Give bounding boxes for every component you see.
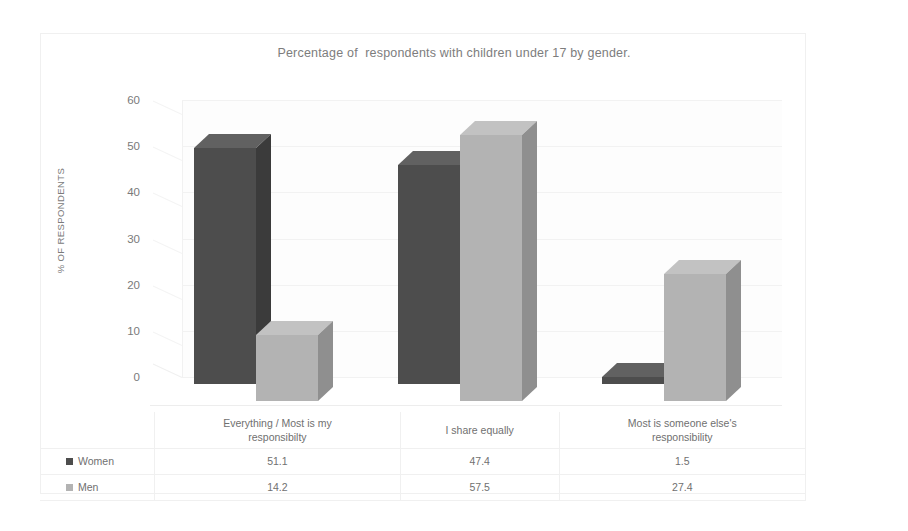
bar-women-i-share-equally (398, 165, 460, 384)
data-table: Everything / Most is my responsibilty I … (40, 412, 806, 501)
bar-front-face (398, 165, 460, 384)
bar-front-face (194, 148, 256, 384)
plot-floor-line (150, 405, 782, 406)
bar-men-most-is-someone-elses-responsibility (664, 274, 726, 401)
legend-label-women: Women (78, 455, 114, 467)
y-axis-title: % OF RESPONDENTS (55, 131, 66, 311)
depth-line-50 (153, 147, 182, 161)
legend-item-women: Women (40, 449, 155, 475)
cell-women-0: 51.1 (155, 449, 401, 475)
table-header-category-1: I share equally (400, 412, 559, 449)
chart-title: Percentage of respondents with children … (0, 46, 908, 60)
gridline-60 (182, 100, 782, 101)
y-tick-30: 30 (100, 233, 140, 245)
bar-men-i-share-equally (460, 135, 522, 401)
cell-women-1: 47.4 (400, 449, 559, 475)
depth-line-20 (153, 286, 182, 300)
depth-line-10 (153, 332, 182, 346)
bar-front-face (460, 135, 522, 401)
y-tick-20: 20 (100, 279, 140, 291)
cell-men-1: 57.5 (400, 475, 559, 501)
table-row-women: Women 51.1 47.4 1.5 (40, 449, 806, 475)
plot-area (150, 100, 805, 412)
depth-line-30 (153, 240, 182, 254)
bar-side-face (522, 121, 537, 401)
bar-men-everything-most-is-my-responsibilty (256, 335, 318, 401)
table-row-men: Men 14.2 57.5 27.4 (40, 475, 806, 501)
table-row-categories: Everything / Most is my responsibilty I … (40, 412, 806, 449)
table-header-category-2: Most is someone else's responsibility (559, 412, 805, 449)
y-tick-60: 60 (100, 94, 140, 106)
y-tick-50: 50 (100, 140, 140, 152)
category-1-line-1: I share equally (446, 424, 514, 436)
y-axis-tick-labels: 60 50 40 30 20 10 0 (96, 100, 140, 412)
legend-item-men: Men (40, 475, 155, 501)
legend-swatch-women-icon (66, 458, 73, 465)
y-tick-0: 0 (100, 371, 140, 383)
category-2-line-2: responsibility (652, 431, 713, 443)
category-0-line-2: responsibilty (248, 431, 306, 443)
table-corner-cell (40, 412, 155, 449)
category-0-line-1: Everything / Most is my (223, 417, 332, 429)
bar-women-everything-most-is-my-responsibilty (194, 148, 256, 384)
cell-men-2: 27.4 (559, 475, 805, 501)
cell-women-2: 1.5 (559, 449, 805, 475)
bar-front-face (602, 377, 664, 384)
y-tick-10: 10 (100, 325, 140, 337)
y-tick-40: 40 (100, 186, 140, 198)
bar-side-face (318, 321, 333, 401)
bar-women-most-is-someone-elses-responsibility (602, 377, 664, 384)
depth-line-40 (153, 193, 182, 207)
bar-side-face (726, 260, 741, 401)
depth-line-0 (153, 364, 182, 378)
legend-swatch-men-icon (66, 484, 73, 491)
bar-front-face (256, 335, 318, 401)
legend-label-men: Men (78, 481, 98, 493)
table-header-category-0: Everything / Most is my responsibilty (155, 412, 401, 449)
bar-front-face (664, 274, 726, 401)
cell-men-0: 14.2 (155, 475, 401, 501)
category-2-line-1: Most is someone else's (628, 417, 737, 429)
depth-line-60 (153, 101, 182, 115)
